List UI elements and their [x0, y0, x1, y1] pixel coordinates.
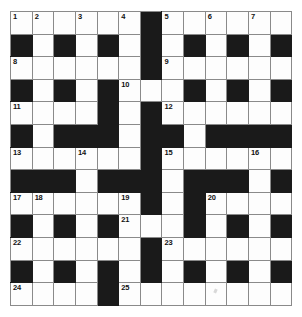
crossword-open-cell[interactable]: 24	[11, 283, 33, 306]
crossword-open-cell[interactable]: 1	[11, 12, 33, 35]
crossword-open-cell[interactable]	[184, 124, 206, 147]
crossword-open-cell[interactable]	[75, 57, 97, 80]
crossword-open-cell[interactable]	[32, 34, 54, 57]
crossword-open-cell[interactable]	[32, 79, 54, 102]
crossword-open-cell[interactable]	[227, 283, 249, 306]
crossword-open-cell[interactable]	[249, 237, 271, 260]
crossword-open-cell[interactable]	[227, 192, 249, 215]
crossword-open-cell[interactable]: 10	[119, 79, 141, 102]
crossword-open-cell[interactable]	[162, 34, 184, 57]
crossword-open-cell[interactable]	[205, 260, 227, 283]
crossword-open-cell[interactable]	[249, 79, 271, 102]
crossword-open-cell[interactable]	[54, 57, 76, 80]
crossword-open-cell[interactable]	[249, 170, 271, 193]
crossword-open-cell[interactable]: 20	[205, 192, 227, 215]
crossword-open-cell[interactable]	[75, 79, 97, 102]
crossword-open-cell[interactable]	[184, 237, 206, 260]
crossword-open-cell[interactable]	[184, 102, 206, 125]
crossword-open-cell[interactable]	[75, 102, 97, 125]
crossword-open-cell[interactable]	[205, 34, 227, 57]
crossword-open-cell[interactable]	[54, 102, 76, 125]
crossword-open-cell[interactable]	[140, 215, 162, 238]
crossword-open-cell[interactable]	[270, 283, 292, 306]
crossword-open-cell[interactable]	[140, 79, 162, 102]
crossword-open-cell[interactable]: 14	[75, 147, 97, 170]
crossword-open-cell[interactable]: 4	[119, 12, 141, 35]
crossword-open-cell[interactable]	[162, 260, 184, 283]
crossword-open-cell[interactable]: 23	[162, 237, 184, 260]
crossword-open-cell[interactable]	[227, 57, 249, 80]
crossword-open-cell[interactable]	[119, 102, 141, 125]
crossword-open-cell[interactable]	[249, 34, 271, 57]
crossword-open-cell[interactable]	[227, 147, 249, 170]
crossword-open-cell[interactable]	[249, 283, 271, 306]
crossword-open-cell[interactable]	[205, 147, 227, 170]
crossword-open-cell[interactable]	[249, 215, 271, 238]
crossword-open-cell[interactable]	[75, 237, 97, 260]
crossword-open-cell[interactable]	[75, 260, 97, 283]
crossword-open-cell[interactable]: 7	[249, 12, 271, 35]
crossword-open-cell[interactable]	[249, 260, 271, 283]
crossword-open-cell[interactable]: 18	[32, 192, 54, 215]
crossword-open-cell[interactable]: 21	[119, 215, 141, 238]
crossword-open-cell[interactable]	[32, 57, 54, 80]
crossword-open-cell[interactable]: 8	[11, 57, 33, 80]
crossword-open-cell[interactable]	[75, 34, 97, 57]
crossword-open-cell[interactable]	[97, 12, 119, 35]
crossword-open-cell[interactable]	[32, 124, 54, 147]
crossword-grid[interactable]: 1234567891011121314151617181920212223242…	[10, 11, 292, 306]
crossword-open-cell[interactable]	[162, 192, 184, 215]
crossword-open-cell[interactable]	[54, 12, 76, 35]
crossword-open-cell[interactable]	[162, 79, 184, 102]
crossword-open-cell[interactable]	[32, 147, 54, 170]
crossword-open-cell[interactable]	[75, 192, 97, 215]
crossword-open-cell[interactable]	[270, 192, 292, 215]
crossword-open-cell[interactable]: 5	[162, 12, 184, 35]
crossword-open-cell[interactable]	[54, 283, 76, 306]
crossword-open-cell[interactable]	[54, 192, 76, 215]
crossword-open-cell[interactable]	[205, 102, 227, 125]
crossword-open-cell[interactable]	[227, 237, 249, 260]
crossword-open-cell[interactable]	[270, 12, 292, 35]
crossword-open-cell[interactable]	[140, 283, 162, 306]
crossword-open-cell[interactable]	[119, 147, 141, 170]
crossword-open-cell[interactable]	[32, 215, 54, 238]
crossword-open-cell[interactable]: 11	[11, 102, 33, 125]
crossword-open-cell[interactable]	[205, 57, 227, 80]
crossword-open-cell[interactable]	[97, 192, 119, 215]
crossword-open-cell[interactable]	[119, 124, 141, 147]
crossword-open-cell[interactable]	[205, 237, 227, 260]
crossword-open-cell[interactable]	[75, 283, 97, 306]
crossword-open-cell[interactable]	[97, 147, 119, 170]
crossword-open-cell[interactable]	[270, 147, 292, 170]
crossword-open-cell[interactable]	[54, 147, 76, 170]
crossword-open-cell[interactable]	[162, 170, 184, 193]
crossword-open-cell[interactable]: 22	[11, 237, 33, 260]
crossword-open-cell[interactable]: 15	[162, 147, 184, 170]
crossword-open-cell[interactable]	[119, 34, 141, 57]
crossword-open-cell[interactable]	[227, 102, 249, 125]
crossword-open-cell[interactable]: 25	[119, 283, 141, 306]
crossword-open-cell[interactable]	[205, 79, 227, 102]
crossword-open-cell[interactable]	[162, 283, 184, 306]
crossword-open-cell[interactable]	[119, 260, 141, 283]
crossword-open-cell[interactable]: 6	[205, 12, 227, 35]
crossword-open-cell[interactable]: 19	[119, 192, 141, 215]
crossword-open-cell[interactable]	[32, 260, 54, 283]
crossword-open-cell[interactable]	[97, 237, 119, 260]
crossword-open-cell[interactable]	[184, 147, 206, 170]
crossword-open-cell[interactable]	[249, 102, 271, 125]
crossword-open-cell[interactable]	[32, 102, 54, 125]
crossword-open-cell[interactable]	[162, 215, 184, 238]
crossword-open-cell[interactable]: 12	[162, 102, 184, 125]
crossword-open-cell[interactable]	[75, 215, 97, 238]
crossword-open-cell[interactable]: 16	[249, 147, 271, 170]
crossword-open-cell[interactable]: 2	[32, 12, 54, 35]
crossword-open-cell[interactable]	[97, 57, 119, 80]
crossword-open-cell[interactable]	[32, 283, 54, 306]
crossword-open-cell[interactable]	[184, 283, 206, 306]
crossword-open-cell[interactable]	[205, 215, 227, 238]
crossword-open-cell[interactable]	[32, 237, 54, 260]
crossword-open-cell[interactable]	[270, 102, 292, 125]
crossword-open-cell[interactable]	[119, 57, 141, 80]
